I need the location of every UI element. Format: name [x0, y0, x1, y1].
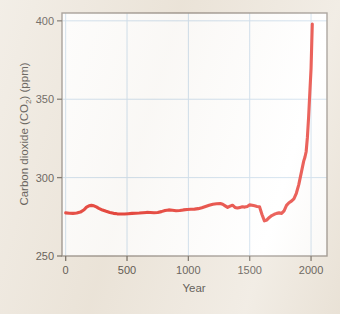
plot-area-background: [62, 13, 327, 256]
x-axis-title: Year: [182, 282, 205, 294]
x-axis-tick-label: 500: [118, 264, 136, 276]
y-axis-tick-label: 400: [36, 15, 54, 27]
co2-line-chart: 250300350400 0500100015002000 Year Carbo…: [0, 0, 340, 314]
y-axis-tick-label: 250: [36, 250, 54, 262]
figure-container: 250300350400 0500100015002000 Year Carbo…: [0, 0, 340, 314]
x-axis-tick-label: 2000: [299, 264, 323, 276]
x-axis-tick-label: 1000: [176, 264, 200, 276]
y-axis-title-main: Carbon dioxide (CO: [18, 104, 30, 206]
y-axis-tick-label: 300: [36, 172, 54, 184]
y-axis-tick-label: 350: [36, 93, 54, 105]
y-axis-title-tail: ) (ppm): [18, 62, 30, 99]
x-axis-tick-label: 1500: [237, 264, 261, 276]
x-axis-tick-label: 0: [63, 264, 69, 276]
